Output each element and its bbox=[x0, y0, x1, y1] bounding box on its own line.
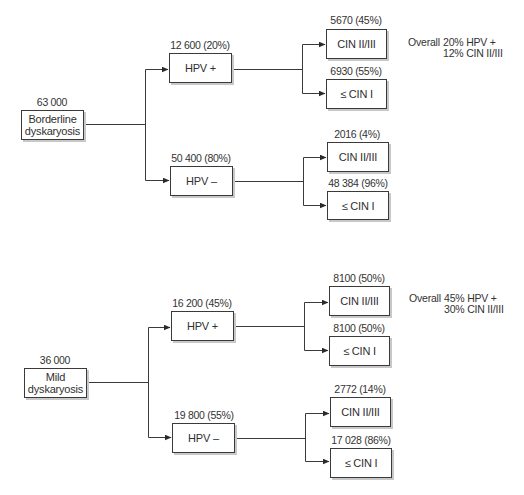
node-label: ≤ CIN I bbox=[342, 200, 375, 212]
node-cin-2-3: CIN II/III bbox=[329, 286, 390, 316]
outcome-count-label: 48 384 (96%) bbox=[328, 177, 387, 189]
outcome-count-label: 17 028 (86%) bbox=[331, 434, 390, 446]
node-label: CIN II/III bbox=[339, 151, 377, 163]
overall-line2: 12% CIN II/III bbox=[408, 48, 503, 59]
node-hpv-positive: HPV + bbox=[171, 311, 234, 341]
node-label: CIN II/III bbox=[340, 295, 378, 307]
node-cin-1-or-less: ≤ CIN I bbox=[330, 448, 392, 478]
outcome-count-label: 2772 (14%) bbox=[334, 383, 385, 395]
branch-count-label: 19 800 (55%) bbox=[174, 409, 233, 421]
overall-key: Overall bbox=[409, 293, 444, 304]
node-label: HPV + bbox=[185, 62, 216, 74]
outcome-count-label: 8100 (50%) bbox=[333, 272, 384, 284]
branch-count-label: 50 400 (80%) bbox=[171, 152, 230, 164]
node-label: HPV + bbox=[187, 320, 218, 332]
node-label: CIN II/III bbox=[337, 38, 375, 50]
node-label-line1: Mild bbox=[28, 371, 83, 383]
node-label: ≤ CIN I bbox=[340, 88, 373, 100]
node-label-line1: Borderline bbox=[25, 113, 80, 125]
outcome-count-label: 2016 (4%) bbox=[334, 128, 380, 140]
node-label: ≤ CIN I bbox=[345, 457, 378, 469]
node-hpv-negative: HPV – bbox=[170, 166, 233, 196]
outcome-count-label: 5670 (45%) bbox=[330, 14, 381, 26]
node-cin-2-3: CIN II/III bbox=[326, 29, 387, 59]
node-label-line2: dyskaryosis bbox=[25, 125, 80, 137]
branch-count-label: 12 600 (20%) bbox=[170, 39, 229, 51]
node-mild-dyskaryosis: Mild dyskaryosis bbox=[24, 368, 87, 398]
overall-line2: 30% CIN II/III bbox=[409, 304, 504, 315]
node-label: HPV – bbox=[188, 432, 219, 444]
connector-lines bbox=[0, 0, 524, 495]
node-cin-1-or-less: ≤ CIN I bbox=[329, 336, 390, 366]
node-cin-1-or-less: ≤ CIN I bbox=[326, 79, 387, 109]
node-cin-1-or-less: ≤ CIN I bbox=[327, 191, 389, 220]
overall-summary: Overall45% HPV + 30% CIN II/III bbox=[409, 293, 504, 315]
root-count-label: 36 000 bbox=[40, 354, 70, 366]
root-count-label: 63 000 bbox=[37, 96, 67, 108]
node-label: HPV – bbox=[186, 175, 217, 187]
overall-summary: Overall20% HPV + 12% CIN II/III bbox=[408, 37, 503, 59]
node-label-line2: dyskaryosis bbox=[28, 383, 83, 395]
node-label: CIN II/III bbox=[341, 406, 379, 418]
node-cin-2-3: CIN II/III bbox=[330, 397, 391, 427]
outcome-count-label: 8100 (50%) bbox=[333, 322, 384, 334]
node-hpv-positive: HPV + bbox=[169, 53, 232, 83]
node-cin-2-3: CIN II/III bbox=[327, 142, 389, 172]
node-hpv-negative: HPV – bbox=[172, 423, 235, 453]
decision-tree-diagram: 63 000 Borderline dyskaryosis 12 600 (20… bbox=[0, 0, 524, 495]
node-borderline-dyskaryosis: Borderline dyskaryosis bbox=[21, 110, 84, 140]
outcome-count-label: 6930 (55%) bbox=[330, 65, 381, 77]
branch-count-label: 16 200 (45%) bbox=[172, 297, 231, 309]
node-label: ≤ CIN I bbox=[343, 345, 376, 357]
overall-key: Overall bbox=[408, 37, 443, 48]
